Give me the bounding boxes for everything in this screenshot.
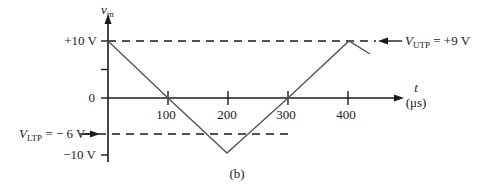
left-arrow-icon <box>378 38 388 45</box>
x-tick-label-200: 200 <box>217 107 237 122</box>
upper-threshold-annotation: VUTP = +9 V <box>378 33 471 50</box>
y-axis-label: vin <box>101 2 114 19</box>
y-tick-label-zero: 0 <box>89 90 96 105</box>
vin-triangle-waveform <box>108 41 370 153</box>
lower-threshold-label: VLTP = − 6 V <box>19 126 86 143</box>
x-axis-unit: (μs) <box>406 95 427 110</box>
y-tick-label-minus10: −10 V <box>63 147 96 162</box>
x-tick-label-400: 400 <box>336 107 356 122</box>
x-tick-label-300: 300 <box>276 107 296 122</box>
figure-caption: (b) <box>229 166 244 181</box>
right-arrow-icon <box>90 131 100 138</box>
lower-threshold-annotation: VLTP = − 6 V <box>19 126 100 143</box>
y-tick-label-plus10: +10 V <box>64 33 97 48</box>
x-axis-arrow-icon <box>394 95 404 102</box>
upper-threshold-label: VUTP = +9 V <box>405 33 471 50</box>
hysteresis-waveform-figure: vin +10 V 0 −10 V 100 200 300 400 t (μs)… <box>0 0 479 191</box>
x-axis-label: t <box>414 80 418 95</box>
x-tick-label-100: 100 <box>156 107 176 122</box>
